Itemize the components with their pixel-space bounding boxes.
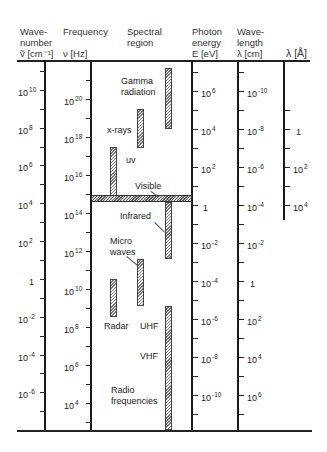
header-line: ν [Hz] (63, 48, 108, 59)
tick (193, 281, 198, 282)
tick (239, 300, 244, 301)
tick (239, 376, 244, 377)
tick (40, 392, 45, 393)
tick-label: 10-6 (247, 162, 264, 175)
tick (40, 184, 45, 185)
tick (86, 403, 91, 404)
tick-label: 10-8 (247, 124, 264, 137)
tick-label: 1014 (64, 208, 82, 221)
tick-label: 104 (18, 198, 33, 211)
tick (193, 167, 198, 168)
tick-label: 1018 (64, 132, 82, 145)
tick (193, 338, 198, 339)
header-spectral-region: Spectral region (127, 26, 162, 48)
tick-label: 106 (18, 160, 33, 173)
tick (193, 91, 198, 92)
tick-label: 102 (293, 162, 308, 175)
tick (193, 148, 198, 149)
leader-infrared (154, 222, 165, 233)
header-wavelength-angstrom: λ [Å] (286, 48, 307, 59)
tick (239, 129, 244, 130)
tick (40, 222, 45, 223)
tick (86, 175, 91, 176)
tick-label: 10-10 (201, 390, 221, 403)
axis-wavelength-angstrom (283, 60, 285, 220)
tick (239, 281, 244, 282)
tick-label: 1012 (64, 246, 82, 259)
tick-label: 104 (64, 398, 79, 411)
tick-label: 10-4 (247, 200, 264, 213)
label-line: Micro (110, 236, 136, 247)
tick (239, 357, 244, 358)
label-line: radiation (121, 87, 156, 98)
label-line: waves (110, 247, 136, 258)
header-line: length (237, 37, 264, 48)
tick-label: 108 (64, 322, 79, 335)
tick (239, 395, 244, 396)
tick (86, 80, 91, 81)
label-microwaves: Micro waves (110, 236, 136, 258)
tick (239, 414, 244, 415)
tick (239, 224, 244, 225)
band-visible (91, 195, 192, 202)
tick (40, 279, 45, 280)
tick-label: 106 (64, 360, 79, 373)
tick (40, 260, 45, 261)
tick (193, 262, 198, 263)
tick-label: 1 (296, 124, 302, 137)
tick (86, 137, 91, 138)
tick (193, 357, 198, 358)
tick (40, 241, 45, 242)
tick (86, 327, 91, 328)
tick-label: 1 (29, 274, 35, 287)
tick-label: 1016 (64, 170, 82, 183)
tick (239, 110, 244, 111)
tick (40, 298, 45, 299)
tick (40, 411, 45, 412)
tick (239, 338, 244, 339)
tick-label: 10-6 (201, 314, 218, 327)
tick (40, 165, 45, 166)
tick (40, 355, 45, 356)
label-xrays: x-rays (107, 125, 132, 136)
tick (86, 99, 91, 100)
tick (193, 300, 198, 301)
tick (193, 110, 198, 111)
header-line: region (127, 37, 162, 48)
tick (285, 129, 290, 130)
tick (86, 289, 91, 290)
tick (193, 205, 198, 206)
tick (40, 373, 45, 374)
header-line: Photon (192, 26, 222, 37)
axis-frequency (90, 60, 92, 431)
tick-label: 10-10 (247, 86, 267, 99)
tick-label: 1010 (18, 85, 36, 98)
header-photon-energy: Photon energy E [eV] (192, 26, 222, 59)
tick-label: 106 (247, 390, 262, 403)
label-uv: uv (126, 155, 136, 166)
tick (86, 384, 91, 385)
tick (40, 128, 45, 129)
tick-label: 104 (201, 124, 216, 137)
tick (40, 336, 45, 337)
tick-label: 104 (293, 200, 308, 213)
tick (193, 129, 198, 130)
header-line: energy (192, 37, 222, 48)
bar-uv (110, 147, 117, 198)
header-line: λ [cm] (237, 48, 264, 59)
tick-label: 10-2 (201, 238, 218, 251)
label-line: Gamma (121, 76, 156, 87)
tick (193, 186, 198, 187)
tick (86, 156, 91, 157)
header-frequency: Frequency ν [Hz] (63, 26, 108, 59)
label-radio-frequencies: Radio frequencies (111, 385, 158, 407)
tick (239, 91, 244, 92)
tick (40, 147, 45, 148)
header-line: number (20, 37, 54, 48)
tick (86, 251, 91, 252)
tick (285, 186, 290, 187)
tick (40, 71, 45, 72)
tick-label: 108 (18, 123, 33, 136)
label-line: frequencies (111, 396, 158, 407)
label-line: Radio (111, 385, 158, 396)
